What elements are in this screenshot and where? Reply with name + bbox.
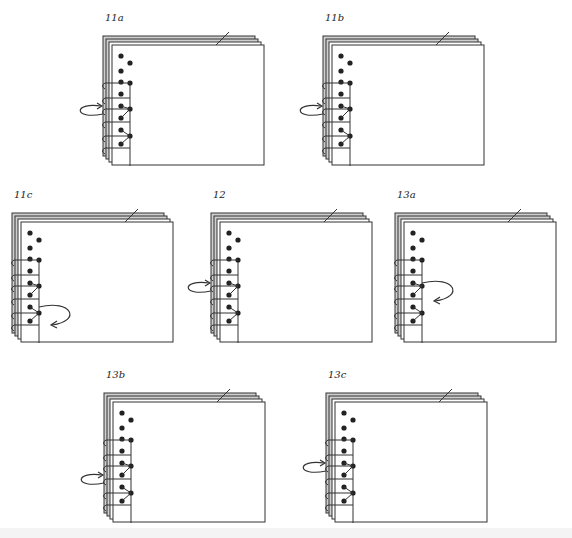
figure-label: 13a bbox=[397, 189, 416, 200]
book-stack-drawing bbox=[323, 36, 493, 171]
book-stack-drawing bbox=[12, 213, 182, 348]
figure-label: 11c bbox=[14, 189, 32, 200]
book-stack-drawing bbox=[103, 36, 273, 171]
book-stack-drawing bbox=[395, 213, 565, 348]
figure-label: 12 bbox=[213, 189, 226, 200]
figure-label: 11b bbox=[325, 12, 344, 23]
book-stack-drawing bbox=[104, 393, 274, 528]
figure-label: 11a bbox=[105, 12, 124, 23]
book-stack-drawing bbox=[211, 213, 381, 348]
bottom-band bbox=[0, 528, 572, 538]
book-stack-drawing bbox=[326, 393, 496, 528]
figure-label: 13c bbox=[328, 369, 346, 380]
figure-label: 13b bbox=[106, 369, 125, 380]
